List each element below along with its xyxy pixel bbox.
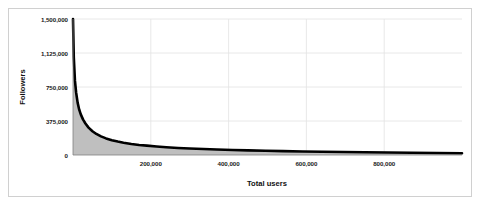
- x-tick-label-2: 600,000: [295, 160, 317, 167]
- y-axis-title: Followers: [18, 69, 27, 104]
- x-axis-title: Total users: [247, 179, 287, 188]
- y-tick-label-0: 0: [0, 152, 68, 159]
- horizontal-gridlines: [73, 19, 462, 121]
- x-tick-label-3: 800,000: [373, 160, 395, 167]
- y-tick-label-4: 1,500,000: [0, 16, 68, 23]
- y-tick-label-1: 375,000: [0, 118, 68, 125]
- x-tick-label-0: 200,000: [140, 160, 162, 167]
- y-tick-label-3: 1,125,000: [0, 50, 68, 57]
- chart-plot-area: [0, 0, 485, 217]
- y-tick-label-2: 750,000: [0, 84, 68, 91]
- series-line: [73, 19, 462, 153]
- x-tick-label-1: 400,000: [218, 160, 240, 167]
